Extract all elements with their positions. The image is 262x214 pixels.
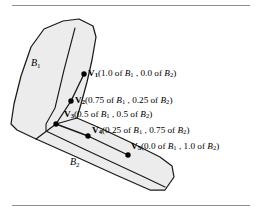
- vertex-dot-v1[interactable]: [81, 71, 86, 76]
- vertex-label-v1-val2: 0.0 of: [141, 68, 165, 78]
- vertex-label-v2: V2(0.75 of B1 , 0.25 of B2): [75, 95, 172, 107]
- vertex-label-v1-val1: 1.0 of: [101, 68, 125, 78]
- vertex-label-v1-symbol: V: [88, 68, 95, 78]
- vertex-label-v4-symbol: V: [92, 125, 99, 135]
- vertex-label-v3-val1: 0.5 of: [77, 109, 101, 119]
- region-label-b1-subscript: 1: [37, 62, 41, 70]
- vertex-label-v2-symbol: V: [75, 95, 82, 105]
- vertex-label-v4-val2: 0.75 of: [149, 125, 177, 135]
- figure-container: B1 B2 V1(1.0 of B1 , 0.0 of B2) V2(0.75 …: [0, 0, 262, 214]
- region-label-b2-subscript: 2: [76, 161, 80, 169]
- vertex-label-v1-close: ): [173, 68, 176, 78]
- vertex-label-v2-val1: 0.75 of: [88, 95, 116, 105]
- vertex-label-v2-close: ): [169, 95, 172, 105]
- vertex-label-v5-close: ): [216, 141, 219, 151]
- vertex-label-v3-symbol: V: [64, 109, 71, 119]
- vertex-label-v3-comma: ,: [110, 109, 117, 119]
- region-label-b1: B1: [31, 57, 41, 70]
- vertex-label-v2-val2: 0.25 of: [132, 95, 160, 105]
- vertex-label-v3-close: ): [149, 109, 152, 119]
- vertex-dot-v2[interactable]: [68, 98, 73, 103]
- vertex-label-v5-comma: ,: [177, 141, 184, 151]
- vertex-label-v5-val1: 0.0 of: [144, 141, 168, 151]
- vertex-label-v3: V3(0.5 of B1 , 0.5 of B2): [64, 109, 152, 121]
- vertex-label-v4-val1: 0.25 of: [105, 125, 133, 135]
- vertex-label-v3-val2: 0.5 of: [117, 109, 141, 119]
- vertex-dot-v5[interactable]: [125, 152, 130, 157]
- vertex-label-v5-val2: 1.0 of: [184, 141, 208, 151]
- vertex-dot-v3[interactable]: [53, 121, 58, 126]
- vertex-label-v1-comma: ,: [134, 68, 141, 78]
- vertex-label-v4: V4(0.25 of B1 , 0.75 of B2): [92, 125, 189, 137]
- vertex-dot-v4[interactable]: [85, 133, 90, 138]
- vertex-label-v1: V1(1.0 of B1 , 0.0 of B2): [88, 68, 176, 80]
- region-label-b2: B2: [70, 156, 80, 169]
- vertex-label-v5: V5(0.0 of B1 , 1.0 of B2): [131, 141, 219, 153]
- vertex-label-v5-symbol: V: [131, 141, 138, 151]
- vertex-label-v4-close: ): [186, 125, 189, 135]
